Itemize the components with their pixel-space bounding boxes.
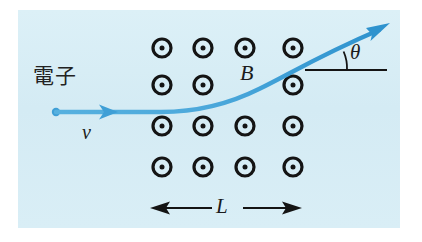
figure-root: 電子 v B θ L <box>0 0 422 242</box>
velocity-label: v <box>82 122 91 142</box>
electron-label: 電子 <box>33 66 77 87</box>
angle-label: θ <box>350 42 360 63</box>
length-label: L <box>216 196 228 217</box>
magnetic-field-label: B <box>240 62 253 84</box>
figure-canvas <box>0 0 422 242</box>
